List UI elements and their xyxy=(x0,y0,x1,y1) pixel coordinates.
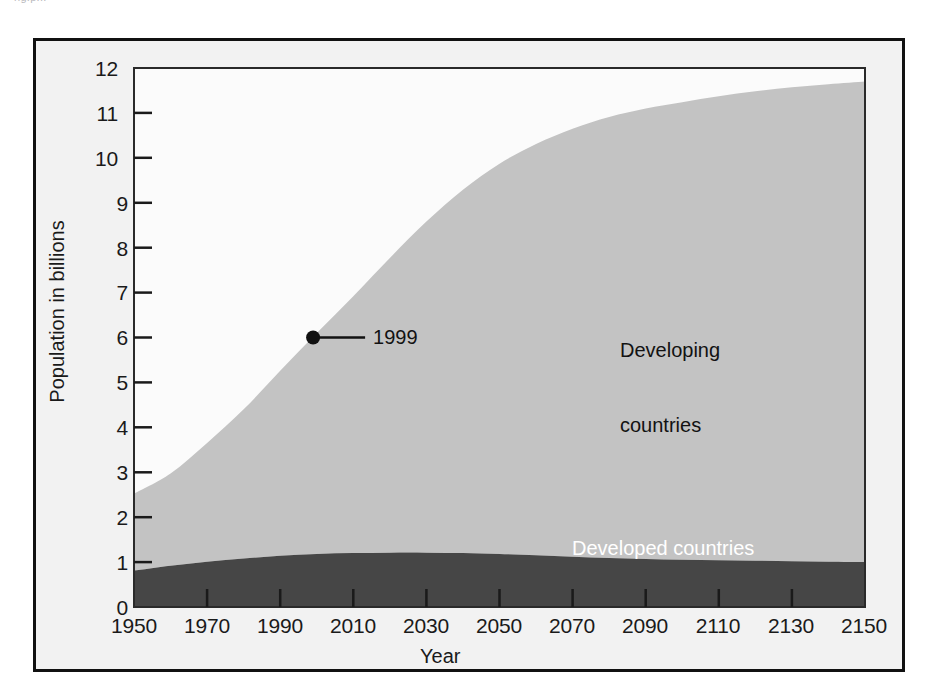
x-axis-title: Year xyxy=(420,645,460,668)
ytick-label-6: 6 xyxy=(88,326,128,350)
ytick-label-4: 4 xyxy=(88,416,128,440)
annotation-point-marker xyxy=(306,331,320,345)
annotation-1999-label: 1999 xyxy=(373,326,418,349)
xtick-label-2150: 2150 xyxy=(824,614,904,638)
xtick-label-2110: 2110 xyxy=(678,614,758,638)
ytick-label-2: 2 xyxy=(88,506,128,530)
ytick-label-3: 3 xyxy=(88,461,128,485)
ytick-label-8: 8 xyxy=(88,237,128,261)
series-label-developing-line2: countries xyxy=(620,413,720,438)
ytick-label-10: 10 xyxy=(78,147,118,171)
ytick-label-5: 5 xyxy=(88,371,128,395)
xtick-label-2090: 2090 xyxy=(605,614,685,638)
ytick-label-9: 9 xyxy=(88,192,128,216)
xtick-label-1950: 1950 xyxy=(94,614,174,638)
xtick-label-2050: 2050 xyxy=(459,614,539,638)
series-label-developed-countries: Developed countries xyxy=(572,536,754,561)
xtick-label-1990: 1990 xyxy=(240,614,320,638)
population-area-chart: 0 1 2 3 4 5 6 7 8 9 10 11 12 1950 1970 1… xyxy=(0,0,938,691)
xtick-label-2010: 2010 xyxy=(313,614,393,638)
xtick-label-1970: 1970 xyxy=(167,614,247,638)
ytick-label-7: 7 xyxy=(88,281,128,305)
ytick-label-11: 11 xyxy=(78,102,118,126)
chart-canvas xyxy=(0,0,938,691)
series-label-developing-countries: Developing countries xyxy=(620,288,720,488)
xtick-label-2030: 2030 xyxy=(386,614,466,638)
ytick-label-1: 1 xyxy=(88,551,128,575)
xtick-label-2130: 2130 xyxy=(751,614,831,638)
ytick-label-12: 12 xyxy=(78,57,118,81)
y-axis-title: Population in billions xyxy=(46,207,69,417)
series-label-developing-line1: Developing xyxy=(620,338,720,363)
xtick-label-2070: 2070 xyxy=(532,614,612,638)
